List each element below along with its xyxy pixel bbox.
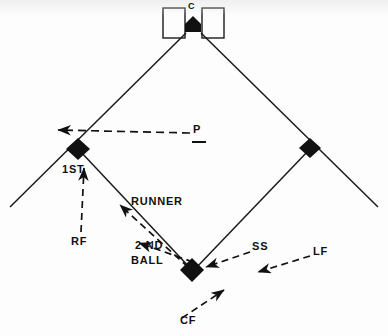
ball-label: BALL <box>131 255 164 267</box>
foul-line-left <box>10 33 186 207</box>
first-base-label: 1ST <box>62 164 85 176</box>
runner-label: RUNNER <box>131 196 183 208</box>
movement-arrows <box>58 130 310 318</box>
second-base-label: 2 ND <box>135 240 163 252</box>
bases-group <box>66 16 321 282</box>
baseline-first-to-second <box>80 151 192 270</box>
left-fielder-arrow <box>258 256 310 272</box>
baselines <box>10 33 378 270</box>
third-base-marker <box>299 138 321 158</box>
baseball-field-svg <box>0 0 388 336</box>
pitcher-label: P <box>193 124 201 136</box>
shortstop-label: SS <box>252 241 268 253</box>
center-field-label: CF <box>180 315 196 327</box>
left-batters-box <box>163 8 185 38</box>
left-field-label: LF <box>313 246 328 258</box>
catcher-label: C <box>188 2 195 12</box>
pitcher-throw-arrow <box>58 130 190 133</box>
baseball-diagram-page: C P 1ST RUNNER RF 2 ND BALL SS LF CF <box>0 0 388 336</box>
first-base-marker <box>66 138 90 160</box>
right-batters-box <box>202 8 224 38</box>
right-fielder-arrow <box>81 168 84 232</box>
shortstop-arrow <box>206 252 250 267</box>
home-plate-marker <box>185 16 201 32</box>
foul-line-right <box>201 33 378 207</box>
right-field-label: RF <box>71 236 87 248</box>
